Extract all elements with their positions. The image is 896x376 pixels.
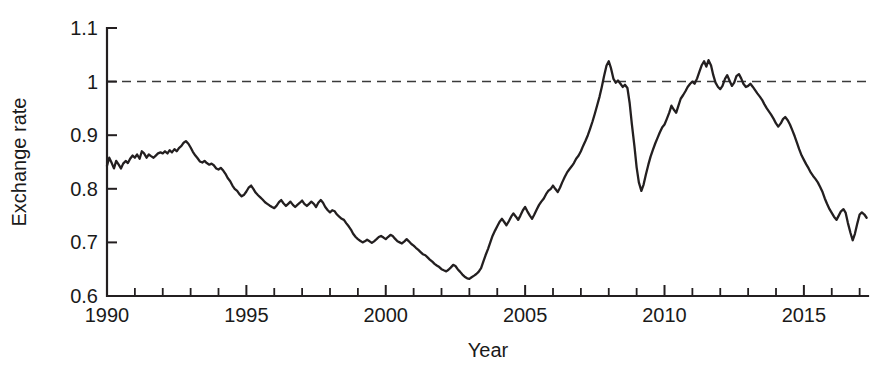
y-tick-label: 0.7 xyxy=(70,231,98,253)
x-tick-label: 1995 xyxy=(224,304,269,326)
exchange-rate-line-chart: 0.60.70.80.911.1199019952000200520102015… xyxy=(0,0,896,376)
x-tick-label: 2010 xyxy=(642,304,687,326)
x-tick-label: 1990 xyxy=(85,304,130,326)
x-tick-label: 2000 xyxy=(364,304,409,326)
x-tick-label: 2015 xyxy=(782,304,827,326)
x-axis-label: Year xyxy=(468,339,509,361)
y-tick-label: 1 xyxy=(87,71,98,93)
y-axis-label: Exchange rate xyxy=(8,98,30,227)
y-tick-label: 0.9 xyxy=(70,124,98,146)
y-tick-label: 1.1 xyxy=(70,17,98,39)
chart-figure: 0.60.70.80.911.1199019952000200520102015… xyxy=(0,0,896,376)
x-tick-label: 2005 xyxy=(503,304,548,326)
y-tick-label: 0.8 xyxy=(70,178,98,200)
plot-background xyxy=(0,0,896,376)
